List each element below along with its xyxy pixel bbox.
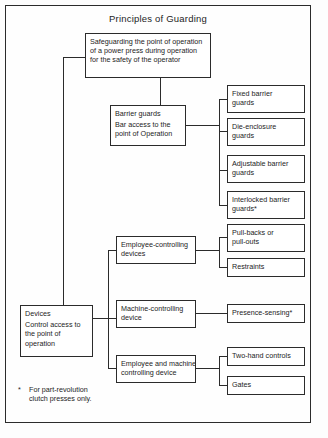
- connector-devices-to-machine: [108, 318, 116, 319]
- connector-root-to-barrier: [160, 78, 161, 105]
- connector-barrier-out: [186, 125, 219, 126]
- connector-barrier-bus: [219, 99, 220, 205]
- fixed-barrier-guards-line1: Fixed barrier: [232, 89, 300, 98]
- gates-box[interactable]: Gates: [227, 376, 305, 395]
- connector-devices-to-empmach: [108, 368, 116, 369]
- restraints-box[interactable]: Restraints: [227, 258, 305, 277]
- die-enclosure-guards-box[interactable]: Die-enclosure guards: [227, 118, 305, 146]
- fixed-barrier-guards-line2: guards: [232, 98, 300, 107]
- devices-line1: Devices: [25, 309, 88, 318]
- safeguarding-root-line3: for the safety of the operator: [90, 55, 206, 64]
- connector-employee-bus: [219, 237, 220, 267]
- two-hand-controls-box[interactable]: Two-hand controls: [227, 347, 305, 366]
- safeguarding-root-line2: of a power press during operation: [90, 46, 206, 55]
- footnote-line1: For part-revolution: [18, 385, 138, 394]
- connector-root-left-drop: [63, 57, 64, 305]
- adjustable-barrier-guards-line1: Adjustable barrier: [232, 159, 300, 168]
- devices-line3: the point of: [25, 329, 88, 338]
- connector-empmach-to-gates: [219, 385, 227, 386]
- gates-line1: Gates: [232, 380, 300, 389]
- connector-devices-to-employee: [108, 250, 116, 251]
- employee-controlling-devices-line1: Employee-controlling: [121, 240, 191, 249]
- employee-controlling-devices-line2: devices: [121, 249, 191, 258]
- devices-box[interactable]: Devices Control access to the point of o…: [20, 305, 93, 357]
- connector-machine-to-presence: [196, 313, 227, 314]
- employee-and-machine-controlling-device-box[interactable]: Employee and machine- controlling device: [116, 355, 196, 383]
- die-enclosure-guards-line1: Die-enclosure: [232, 122, 300, 131]
- devices-line4: operation: [25, 339, 88, 348]
- connector-devices-bus: [108, 250, 109, 368]
- barrier-guards-line1: Barrier guards: [115, 109, 181, 118]
- connector-root-left-stub: [63, 57, 85, 58]
- two-hand-controls-line1: Two-hand controls: [232, 351, 300, 360]
- interlocked-barrier-guards-line1: Interlocked barrier: [232, 195, 300, 204]
- footnote-marker: *: [18, 385, 21, 394]
- barrier-guards-line2: Bar access to the: [115, 120, 181, 129]
- connector-empmach-to-twohand: [219, 356, 227, 357]
- connector-empmach-bus: [219, 356, 220, 385]
- connector-employee-to-restraints: [219, 267, 227, 268]
- safeguarding-root-line1: Safeguarding the point of operation: [90, 37, 206, 46]
- barrier-guards-box[interactable]: Barrier guards Bar access to the point o…: [110, 105, 186, 146]
- employee-and-machine-line2: controlling device: [121, 368, 191, 377]
- interlocked-barrier-guards-line2: guards*: [232, 204, 300, 213]
- die-enclosure-guards-line2: guards: [232, 131, 300, 140]
- diagram-canvas: Principles of Guarding Safeguarding the …: [0, 0, 328, 438]
- devices-line2: Control access to: [25, 320, 88, 329]
- interlocked-barrier-guards-box[interactable]: Interlocked barrier guards*: [227, 191, 305, 219]
- employee-controlling-devices-box[interactable]: Employee-controlling devices: [116, 236, 196, 264]
- page-title: Principles of Guarding: [5, 13, 311, 24]
- connector-devices-out: [93, 318, 108, 319]
- presence-sensing-line1: Presence-sensing*: [232, 308, 300, 317]
- employee-and-machine-line1: Employee and machine-: [121, 359, 191, 368]
- adjustable-barrier-guards-line2: guards: [232, 168, 300, 177]
- connector-empmach-out: [196, 368, 219, 369]
- connector-employee-out: [196, 250, 219, 251]
- connector-employee-to-pullbacks: [219, 237, 227, 238]
- footnote-line2: clutch presses only.: [18, 394, 138, 403]
- presence-sensing-box[interactable]: Presence-sensing*: [227, 304, 305, 323]
- machine-controlling-device-line2: device: [121, 313, 191, 322]
- machine-controlling-device-line1: Machine-controlling: [121, 304, 191, 313]
- connector-barrier-to-interlocked: [219, 205, 227, 206]
- pull-backs-line2: pull-outs: [232, 237, 300, 246]
- footnote: * For part-revolution clutch presses onl…: [18, 385, 138, 404]
- connector-barrier-to-die: [219, 131, 227, 132]
- machine-controlling-device-box[interactable]: Machine-controlling device: [116, 300, 196, 328]
- safeguarding-root-box[interactable]: Safeguarding the point of operation of a…: [85, 33, 211, 78]
- connector-barrier-to-adjustable: [219, 170, 227, 171]
- pull-backs-or-pull-outs-box[interactable]: Pull-backs or pull-outs: [227, 224, 305, 252]
- fixed-barrier-guards-box[interactable]: Fixed barrier guards: [227, 85, 305, 113]
- restraints-line1: Restraints: [232, 262, 300, 271]
- barrier-guards-line3: point of Operation: [115, 129, 181, 138]
- connector-barrier-to-fixed: [219, 99, 227, 100]
- pull-backs-line1: Pull-backs or: [232, 228, 300, 237]
- adjustable-barrier-guards-box[interactable]: Adjustable barrier guards: [227, 155, 305, 183]
